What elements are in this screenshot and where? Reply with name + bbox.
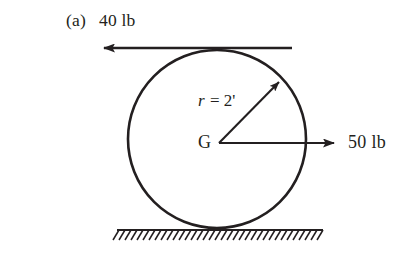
force-label-40lb: 40 lb (99, 12, 136, 30)
figure-canvas: (a) 40 lb r = 2' G 50 lb (0, 0, 415, 253)
part-label: (a) (66, 12, 86, 30)
center-of-gravity-label: G (198, 133, 211, 151)
radius-value: 2' (224, 91, 236, 110)
disk-body (128, 50, 306, 228)
radius-symbol: r (198, 91, 206, 110)
ground-hatching (113, 230, 323, 240)
force-label-50lb: 50 lb (348, 133, 386, 151)
radius-equals: = (206, 91, 224, 110)
mechanics-free-body-diagram (0, 0, 415, 253)
radius-label: r = 2' (198, 92, 235, 109)
